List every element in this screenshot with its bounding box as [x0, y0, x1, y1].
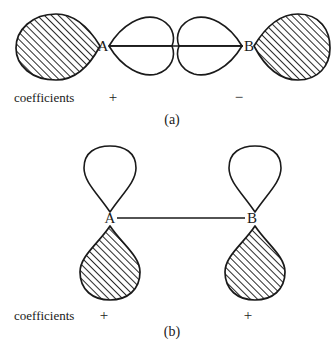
- panel-caption-a: (a): [164, 112, 180, 128]
- coefficient-sign-b-left: +: [100, 307, 108, 323]
- lobe-far-right-hatched: [254, 14, 330, 80]
- atom-label-a-left: A: [98, 38, 109, 54]
- lobe-far-left-hatched: [16, 14, 100, 80]
- coefficients-label-a: coefficients: [14, 90, 74, 105]
- lobe-inner-left-lower: [109, 46, 173, 75]
- coefficient-sign-a-left: +: [109, 89, 117, 105]
- atom-label-b-right: B: [247, 210, 257, 226]
- lobe-above-a-white: [84, 146, 136, 212]
- lobe-above-b-white: [229, 146, 281, 212]
- lobe-below-b-hatched: [225, 226, 285, 300]
- orbital-overlap-figure: A B coefficients + − (a) A B: [0, 0, 334, 341]
- atom-label-a-right: B: [244, 38, 254, 54]
- atom-label-b-left: A: [105, 210, 116, 226]
- panel-a-group: A B coefficients + − (a): [14, 14, 330, 128]
- panel-caption-b: (b): [164, 324, 181, 340]
- coefficient-sign-b-right: +: [244, 307, 252, 323]
- coefficient-sign-a-right: −: [235, 89, 243, 105]
- lobe-inner-right-lower: [178, 46, 242, 75]
- coefficients-label-b: coefficients: [14, 308, 74, 323]
- panel-b-group: A B coefficients + + (b): [14, 146, 285, 340]
- lobe-inner-left-upper: [109, 17, 173, 46]
- lobe-inner-right-upper: [178, 17, 242, 46]
- lobe-below-a-hatched: [80, 226, 140, 300]
